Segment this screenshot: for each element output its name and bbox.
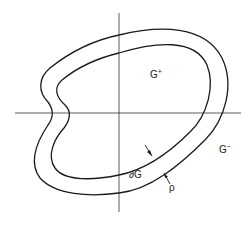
label-g-minus: G− <box>219 145 231 155</box>
label-g-plus: G+ <box>150 70 162 80</box>
inner-curve <box>51 45 210 179</box>
label-rho: ρ <box>169 183 175 193</box>
label-boundary: ∂G <box>129 170 142 180</box>
region-diagram <box>0 0 250 226</box>
width-arrow-inner <box>145 145 152 156</box>
